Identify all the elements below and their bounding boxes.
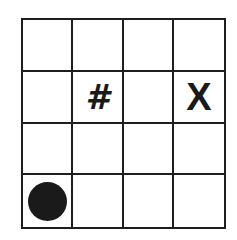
cell-r4-c1[interactable]	[23, 175, 73, 227]
cell-r1-c2[interactable]	[73, 20, 123, 72]
cell-r4-c3[interactable]	[124, 175, 174, 227]
cell-r1-c3[interactable]	[124, 20, 174, 72]
cell-r1-c1[interactable]	[23, 20, 73, 72]
filled-circle-icon	[28, 182, 67, 221]
cell-r2-c1[interactable]	[23, 72, 73, 124]
cell-r2-c3[interactable]	[124, 72, 174, 124]
hash-icon: #	[86, 80, 110, 114]
cell-r4-c2[interactable]	[73, 175, 123, 227]
x-mark-icon: X	[186, 78, 211, 116]
cell-r3-c3[interactable]	[124, 124, 174, 176]
cell-r3-c4[interactable]	[174, 124, 224, 176]
game-grid: # X	[21, 18, 226, 229]
cell-r1-c4[interactable]	[174, 20, 224, 72]
cell-r3-c1[interactable]	[23, 124, 73, 176]
cell-r2-c2[interactable]: #	[73, 72, 123, 124]
cell-r2-c4[interactable]: X	[174, 72, 224, 124]
cell-r3-c2[interactable]	[73, 124, 123, 176]
cell-r4-c4[interactable]	[174, 175, 224, 227]
